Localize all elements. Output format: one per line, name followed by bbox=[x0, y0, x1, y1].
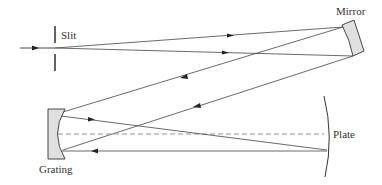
incoming-beam bbox=[20, 46, 55, 51]
slit-label: Slit bbox=[61, 30, 76, 41]
plate bbox=[324, 96, 329, 177]
mirror bbox=[342, 20, 364, 56]
slit-to-mirror-rays bbox=[55, 27, 353, 56]
grating-label: Grating bbox=[39, 164, 73, 175]
spectrograph-diagram bbox=[0, 0, 382, 185]
plate-label: Plate bbox=[333, 129, 355, 140]
arrow-icon bbox=[91, 149, 98, 154]
mirror-label: Mirror bbox=[336, 6, 365, 17]
mirror-to-grating-rays bbox=[63, 27, 353, 150]
arrow-icon bbox=[32, 46, 39, 51]
grating-to-plate-rays bbox=[61, 116, 327, 151]
arrow-icon bbox=[88, 117, 95, 122]
arrow-icon bbox=[222, 51, 229, 55]
arrow-icon bbox=[227, 34, 234, 38]
